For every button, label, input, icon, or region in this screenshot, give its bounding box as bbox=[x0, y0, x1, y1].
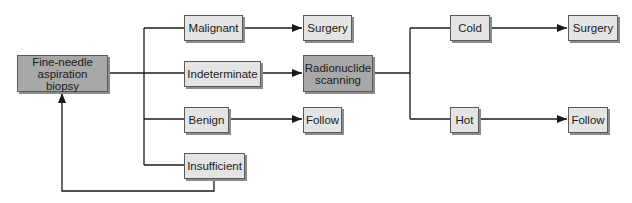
indeterminate-node: Indeterminate bbox=[184, 61, 261, 87]
follow-node-2: Follow bbox=[568, 107, 608, 133]
surgery-node-2: Surgery bbox=[568, 15, 618, 41]
benign-node: Benign bbox=[184, 107, 229, 133]
cold-node: Cold bbox=[450, 15, 490, 41]
insufficient-node: Insufficient bbox=[184, 153, 245, 179]
follow-node-1: Follow bbox=[303, 107, 342, 133]
fine-needle-aspiration-node: Fine-needle aspiration biopsy bbox=[17, 55, 108, 92]
hot-node: Hot bbox=[450, 107, 479, 133]
radionuclide-scanning-node: Radionuclide scanning bbox=[303, 55, 373, 92]
malignant-node: Malignant bbox=[184, 15, 243, 41]
surgery-node-1: Surgery bbox=[303, 15, 352, 41]
